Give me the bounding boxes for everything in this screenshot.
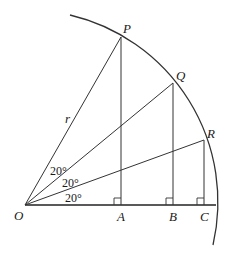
label-b: B [169, 209, 177, 224]
radius-oq [25, 83, 173, 205]
label-a: A [116, 209, 125, 224]
angle-label-middle: 20° [62, 176, 79, 190]
right-angle-b [166, 198, 173, 205]
right-angle-a [114, 198, 121, 205]
circle-arc [70, 15, 218, 245]
label-r: R [206, 126, 215, 141]
label-c: C [200, 209, 209, 224]
right-angle-c [197, 198, 204, 205]
angle-label-bottom: 20° [65, 191, 82, 205]
label-radius: r [65, 111, 71, 126]
label-q: Q [176, 68, 186, 83]
diagram-canvas: P Q R O A B C r 20° 20° 20° [0, 0, 228, 258]
label-o: O [14, 208, 24, 223]
label-p: P [122, 21, 131, 36]
